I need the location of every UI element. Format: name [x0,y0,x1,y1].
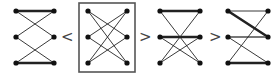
graph-g3 [157,8,202,65]
graph-g4 [225,8,270,65]
vertex-L3 [13,60,18,65]
vertex-R1 [124,8,129,13]
vertex-R3 [197,60,202,65]
vertex-R2 [265,34,270,39]
vertex-L3 [85,60,90,65]
vertex-R2 [51,34,56,39]
vertex-L2 [85,34,90,39]
relation-greater-than-2: > [209,28,222,46]
relation-greater-than-1: > [139,28,152,46]
edge-L2-R3 [228,37,268,63]
graph-g1 [13,8,56,65]
vertex-L1 [13,8,18,13]
vertex-R1 [265,8,270,13]
vertex-L2 [157,34,162,39]
vertex-R3 [265,60,270,65]
relation-less-than: < [61,28,74,46]
vertex-L2 [13,34,18,39]
edge-L1-R2 [228,11,268,37]
vertex-L1 [225,8,230,13]
vertex-L3 [157,60,162,65]
vertex-R1 [51,8,56,13]
vertex-L3 [225,60,230,65]
vertex-L1 [157,8,162,13]
vertex-R2 [197,34,202,39]
vertex-R3 [51,60,56,65]
vertex-R2 [124,34,129,39]
vertex-L2 [225,34,230,39]
graph-ordering-diagram: < > > [0,0,279,76]
vertex-R1 [197,8,202,13]
vertex-R3 [124,60,129,65]
graph-g2 [79,3,135,72]
vertex-L1 [85,8,90,13]
